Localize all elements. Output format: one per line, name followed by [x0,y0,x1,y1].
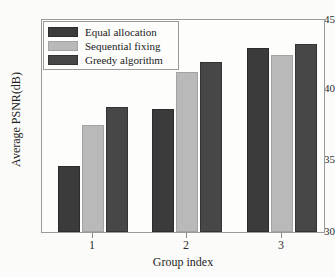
bar-g1-greedy-algorithm [106,107,128,233]
legend-swatch-icon-sequential-fixing [48,41,78,51]
y-axis-label: Average PSNR(dB) [9,40,24,200]
bar-g3-sequential-fixing [271,55,293,232]
legend-label-greedy-algorithm: Greedy algorithm [85,54,163,66]
bar-g1-sequential-fixing [82,125,104,232]
bar-g3-greedy-algorithm [295,44,317,232]
x-tick-label-2: 2 [166,238,206,253]
bar-g2-equal-allocation [152,109,174,232]
bar-g3-equal-allocation [247,48,269,232]
legend-item-sequential-fixing: Sequential fixing [48,39,174,52]
bar-g2-sequential-fixing [176,72,198,232]
legend-item-greedy-algorithm: Greedy algorithm [48,53,174,66]
x-axis-label: Group index [41,255,325,270]
x-tick-label-3: 3 [261,238,301,253]
bar-g2-greedy-algorithm [200,62,222,232]
legend-item-equal-allocation: Equal allocation [48,25,174,38]
legend-swatch-icon-greedy-algorithm [48,55,78,65]
chart-legend: Equal allocation Sequential fixing Greed… [43,21,179,70]
legend-label-sequential-fixing: Sequential fixing [85,40,160,52]
x-tick-label-1: 1 [72,238,112,253]
legend-label-equal-allocation: Equal allocation [85,26,157,38]
bar-g1-equal-allocation [58,166,80,232]
legend-swatch-icon-equal-allocation [48,27,78,37]
chart-figure: Average PSNR(dB) 45 40 35 30 1 2 3 Group… [0,0,335,277]
